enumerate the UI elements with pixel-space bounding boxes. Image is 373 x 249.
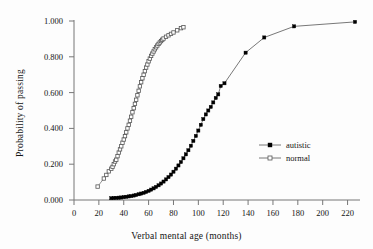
x-tick-marks <box>74 200 348 205</box>
data-point <box>202 117 205 120</box>
data-point <box>116 154 119 157</box>
data-point <box>172 170 175 173</box>
data-point <box>217 93 220 96</box>
legend-marker <box>268 143 272 147</box>
data-point <box>131 111 134 114</box>
data-point <box>141 77 144 80</box>
series-line <box>98 27 184 186</box>
data-point <box>192 139 195 142</box>
series-autistic <box>110 20 357 200</box>
data-point <box>128 119 131 122</box>
data-point <box>184 153 187 156</box>
data-point <box>139 81 142 84</box>
data-point <box>197 129 200 132</box>
data-point <box>199 123 202 126</box>
y-tick-marks <box>69 21 74 200</box>
data-point <box>223 82 226 85</box>
y-tick-label: 0.200 <box>29 159 63 169</box>
data-point <box>122 138 125 141</box>
data-point <box>105 173 108 176</box>
data-point <box>134 98 137 101</box>
data-point <box>187 149 190 152</box>
data-point <box>244 51 247 54</box>
data-point <box>293 25 296 28</box>
data-point <box>102 177 105 180</box>
chart-figure: 0.0000.2000.4000.6000.8001.000 020406080… <box>0 0 373 249</box>
legend-markers <box>259 143 281 160</box>
y-tick-label: 0.000 <box>29 195 63 205</box>
data-point <box>133 102 136 105</box>
y-tick-label: 0.400 <box>29 123 63 133</box>
data-point <box>130 115 133 118</box>
legend-marker <box>268 156 272 160</box>
data-point <box>136 94 139 97</box>
x-tick-label: 220 <box>333 208 363 218</box>
data-point <box>179 160 182 163</box>
data-point <box>120 145 123 148</box>
data-point <box>123 134 126 137</box>
data-point <box>115 158 118 161</box>
data-point <box>263 36 266 39</box>
data-point <box>143 69 146 72</box>
data-point <box>172 31 175 34</box>
data-point <box>96 185 99 188</box>
legend-entry-normal: normal <box>286 153 310 163</box>
y-axis-title: Probability of passing <box>9 13 27 213</box>
data-point <box>177 164 180 167</box>
series-normal <box>96 26 185 189</box>
data-point <box>125 131 128 134</box>
data-point <box>137 89 140 92</box>
axes <box>74 20 360 200</box>
y-tick-label: 1.000 <box>29 16 63 26</box>
data-point <box>127 123 130 126</box>
data-point <box>209 105 212 108</box>
legend-entry-autistic: autistic <box>286 140 311 150</box>
data-point <box>353 20 356 23</box>
data-point <box>132 106 135 109</box>
data-point <box>142 73 145 76</box>
data-point <box>212 101 215 104</box>
data-point <box>207 109 210 112</box>
data-point <box>174 167 177 170</box>
data-point <box>182 157 185 160</box>
data-point <box>189 144 192 147</box>
y-tick-label: 0.600 <box>29 88 63 98</box>
x-axis-title: Verbal mental age (months) <box>0 231 373 241</box>
x-axis-title-text: Verbal mental age (months) <box>131 231 241 241</box>
y-axis-title-text: Probability of passing <box>15 69 25 157</box>
data-point <box>176 29 179 32</box>
data-point <box>204 113 207 116</box>
y-tick-label: 0.800 <box>29 52 63 62</box>
data-point <box>194 134 197 137</box>
data-point <box>214 96 217 99</box>
data-point <box>138 85 141 88</box>
series-line <box>111 22 355 198</box>
data-point <box>126 127 129 130</box>
data-point <box>219 84 222 87</box>
data-point <box>182 26 185 29</box>
